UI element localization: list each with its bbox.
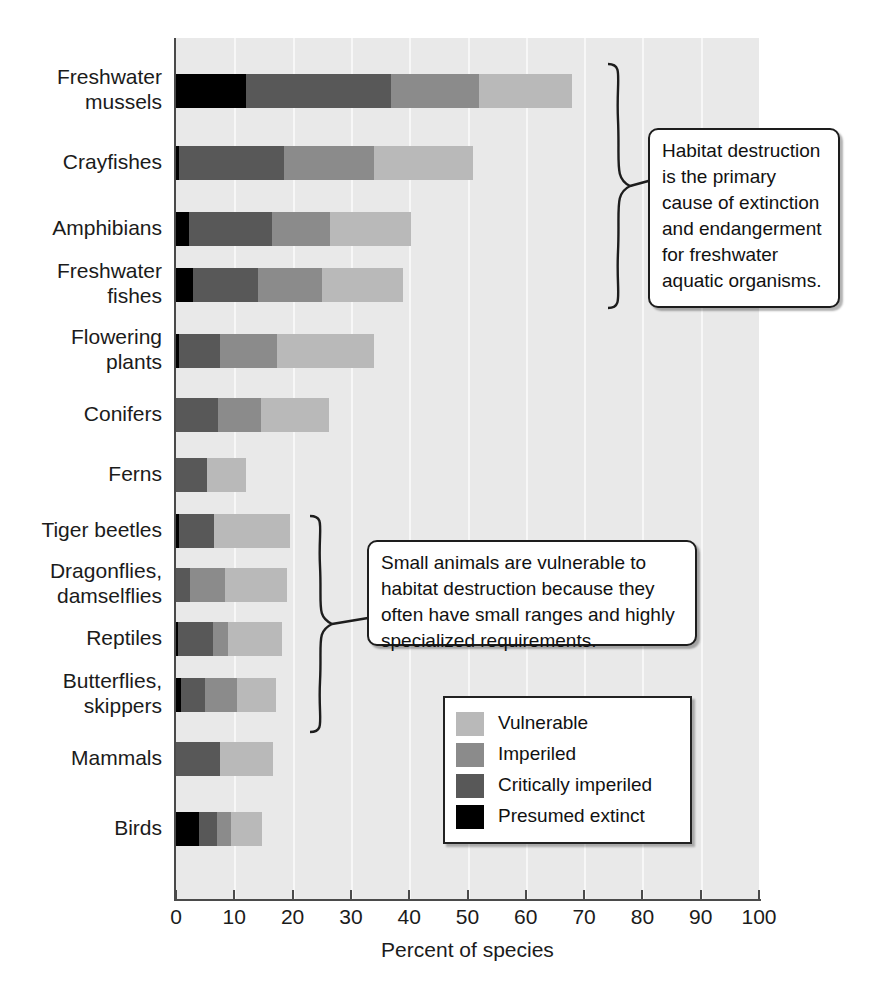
category-label-line: plants: [0, 349, 162, 374]
category-label-line: mussels: [0, 89, 162, 114]
bar-segment: [176, 742, 220, 776]
x-tick-label-70: 70: [554, 905, 614, 929]
x-tick-20: [292, 890, 294, 900]
x-tick-60: [525, 890, 527, 900]
category-label: Reptiles: [0, 625, 162, 650]
category-label: Birds: [0, 815, 162, 840]
bar-segment: [258, 268, 322, 302]
bar-row: [176, 514, 290, 548]
bar-segment: [176, 398, 218, 432]
bar-segment: [179, 146, 283, 180]
x-tick-80: [641, 890, 643, 900]
bar-segment: [176, 74, 246, 108]
x-tick-0: [175, 890, 177, 900]
bar-segment: [213, 622, 229, 656]
x-tick-label-60: 60: [496, 905, 556, 929]
x-tick-30: [350, 890, 352, 900]
bar-segment: [228, 622, 282, 656]
bar-segment: [391, 74, 479, 108]
x-tick-label-20: 20: [263, 905, 323, 929]
bar-segment: [225, 568, 287, 602]
bar-segment: [179, 334, 220, 368]
bar-segment: [218, 398, 261, 432]
bar-segment: [374, 146, 473, 180]
category-label: Crayfishes: [0, 149, 162, 174]
x-tick-label-30: 30: [321, 905, 381, 929]
legend-label: Critically imperiled: [498, 772, 652, 798]
x-tick-50: [467, 890, 469, 900]
bar-segment: [178, 622, 213, 656]
x-tick-label-90: 90: [671, 905, 731, 929]
category-label-line: Butterflies,: [0, 668, 162, 693]
category-label-line: damselflies: [0, 583, 162, 608]
x-tick-label-80: 80: [612, 905, 672, 929]
legend: VulnerableImperiledCritically imperiledP…: [443, 696, 692, 844]
bar-row: [176, 146, 473, 180]
bar-segment: [231, 812, 261, 846]
x-tick-90: [700, 890, 702, 900]
x-tick-label-0: 0: [146, 905, 206, 929]
category-label-line: Crayfishes: [0, 149, 162, 174]
bar-segment: [176, 812, 199, 846]
callout-habitat-destruction: Habitat destruction is the primary cause…: [648, 128, 840, 308]
category-label: Freshwaterfishes: [0, 258, 162, 308]
bar-row: [176, 398, 329, 432]
bar-segment: [261, 398, 329, 432]
bar-segment: [179, 514, 214, 548]
bar-segment: [217, 812, 232, 846]
bar-segment: [322, 268, 404, 302]
x-tick-40: [408, 890, 410, 900]
category-label-line: Tiger beetles: [0, 517, 162, 542]
legend-label: Imperiled: [498, 741, 576, 767]
bar-segment: [479, 74, 572, 108]
category-label: Tiger beetles: [0, 517, 162, 542]
bar-segment: [330, 212, 411, 246]
category-label: Ferns: [0, 461, 162, 486]
bar-segment: [246, 74, 391, 108]
category-label-line: Freshwater: [0, 64, 162, 89]
x-tick-label-40: 40: [379, 905, 439, 929]
x-tick-label-100: 100: [729, 905, 789, 929]
bar-row: [176, 212, 411, 246]
bar-segment: [220, 334, 277, 368]
x-tick-label-10: 10: [204, 905, 264, 929]
bar-segment: [176, 212, 189, 246]
category-label: Mammals: [0, 745, 162, 770]
bar-segment: [176, 458, 207, 492]
bar-row: [176, 458, 246, 492]
x-tick-label-50: 50: [438, 905, 498, 929]
x-axis-title: Percent of species: [176, 938, 759, 962]
chart-figure: 0102030405060708090100 Percent of specie…: [0, 0, 875, 1000]
category-label-line: Dragonflies,: [0, 558, 162, 583]
bar-row: [176, 334, 374, 368]
x-tick-70: [583, 890, 585, 900]
bar-segment: [176, 268, 193, 302]
bar-row: [176, 812, 262, 846]
category-label-line: Flowering: [0, 324, 162, 349]
bar-segment: [272, 212, 330, 246]
bar-segment: [176, 568, 190, 602]
legend-swatch: [456, 805, 484, 829]
legend-swatch: [456, 774, 484, 798]
x-tick-100: [758, 890, 760, 900]
bar-segment: [277, 334, 374, 368]
bar-row: [176, 74, 572, 108]
category-label-line: Birds: [0, 815, 162, 840]
category-label-line: Freshwater: [0, 258, 162, 283]
category-label-line: Amphibians: [0, 215, 162, 240]
category-label: Conifers: [0, 401, 162, 426]
bar-row: [176, 568, 287, 602]
category-label-line: skippers: [0, 693, 162, 718]
legend-label: Presumed extinct: [498, 803, 645, 829]
bar-segment: [237, 678, 277, 712]
category-label-line: fishes: [0, 283, 162, 308]
bar-segment: [207, 458, 246, 492]
legend-label: Vulnerable: [498, 710, 588, 736]
bar-segment: [181, 678, 205, 712]
category-label-line: Ferns: [0, 461, 162, 486]
category-label: Freshwatermussels: [0, 64, 162, 114]
category-label-line: Reptiles: [0, 625, 162, 650]
category-label-line: Conifers: [0, 401, 162, 426]
legend-swatch: [456, 712, 484, 736]
bar-segment: [214, 514, 290, 548]
